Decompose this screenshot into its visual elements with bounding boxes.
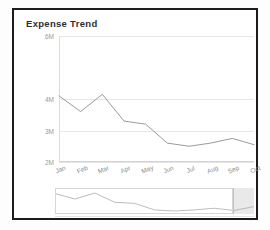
series-expense (59, 36, 254, 162)
y-tick-label: 3M (45, 127, 54, 134)
x-tick-label-aug: Aug (205, 164, 218, 175)
gridline-2M (59, 162, 254, 163)
x-tick-label-jan: Jan (54, 164, 66, 174)
y-tick-label: 2M (45, 159, 54, 166)
x-tick-label-sep: Sep (227, 164, 240, 175)
navigator-handle-right[interactable] (233, 188, 234, 214)
chart-plot-area[interactable]: 6M4M3M2M JanFebMarAprMayJunJulAugSepOct (59, 36, 254, 162)
navigator-mask-right[interactable] (233, 188, 254, 214)
chart-card: Expense Trend 6M4M3M2M JanFebMarAprMayJu… (12, 8, 258, 220)
y-tick-label: 6M (45, 33, 54, 40)
range-navigator[interactable] (55, 188, 254, 214)
navigator-selection-window[interactable] (55, 188, 233, 214)
page-root: Expense Trend 6M4M3M2M JanFebMarAprMayJu… (0, 0, 270, 230)
x-tick-label-oct: Oct (249, 164, 261, 174)
x-tick-label-may: May (140, 164, 154, 175)
x-tick-label-feb: Feb (75, 164, 88, 175)
x-tick-label-mar: Mar (97, 164, 110, 175)
x-tick-label-apr: Apr (119, 164, 131, 174)
navigator-baseline (55, 216, 254, 217)
x-tick-label-jul: Jul (185, 164, 195, 174)
x-tick-label-jun: Jun (162, 164, 174, 174)
series-expense-line (59, 94, 254, 146)
y-tick-label: 4M (45, 96, 54, 103)
page-title: Expense Trend (26, 18, 97, 29)
